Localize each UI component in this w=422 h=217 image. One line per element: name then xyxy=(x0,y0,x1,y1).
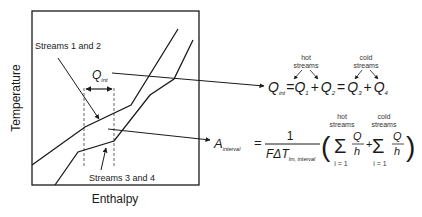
q-balance-equation: hot streams cold streams Qint=Q1+Q2=Q3+Q… xyxy=(268,54,389,96)
cold-streams-label: Streams 3 and 4 xyxy=(89,173,155,183)
svg-text:): ) xyxy=(406,131,415,162)
svg-text:Σ: Σ xyxy=(372,135,384,157)
svg-text:streams: streams xyxy=(294,62,319,69)
x-axis-label: Enthalpy xyxy=(92,192,139,206)
interval-to-area-equation-arrow xyxy=(108,129,210,140)
svg-text:cold: cold xyxy=(360,54,373,61)
svg-text:i = 1: i = 1 xyxy=(334,160,348,167)
svg-text:streams: streams xyxy=(330,121,355,128)
cold-composite-curve xyxy=(55,40,193,185)
svg-text:=: = xyxy=(254,135,262,150)
svg-text:Ainterval: Ainterval xyxy=(213,136,241,152)
q-int-label: Qint xyxy=(92,68,108,83)
y-axis-label: Temperature xyxy=(9,64,23,132)
cold-streams-pointer xyxy=(101,148,106,170)
composite-curve-diagram: Streams 1 and 2 Qint Streams 3 and 4 Tem… xyxy=(0,0,422,217)
svg-text:h: h xyxy=(354,145,360,157)
area-equation: Ainterval = 1 FΔTlm, interval ( hot stre… xyxy=(213,113,415,167)
svg-text:streams: streams xyxy=(354,62,379,69)
svg-text:cold: cold xyxy=(378,113,391,120)
svg-text:hot: hot xyxy=(301,54,311,61)
svg-text:streams: streams xyxy=(372,121,397,128)
svg-text:(: ( xyxy=(321,131,331,162)
svg-text:hot: hot xyxy=(337,113,347,120)
plot-frame xyxy=(32,11,199,185)
svg-text:i = 1: i = 1 xyxy=(373,160,387,167)
svg-text:FΔTlm, interval: FΔTlm, interval xyxy=(266,147,316,162)
svg-text:Q: Q xyxy=(393,130,402,142)
svg-text:h: h xyxy=(394,145,400,157)
hot-streams-label: Streams 1 and 2 xyxy=(35,41,101,51)
svg-text:Q: Q xyxy=(353,130,362,142)
q-int-to-equation-arrow xyxy=(112,73,264,86)
svg-text:Qint=Q1+Q2=Q3+Q4: Qint=Q1+Q2=Q3+Q4 xyxy=(268,79,389,96)
svg-text:Σ: Σ xyxy=(334,135,346,157)
svg-text:1: 1 xyxy=(287,129,294,143)
